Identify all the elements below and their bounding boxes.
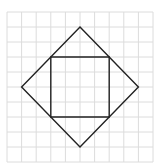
grid-lines	[7, 12, 153, 162]
grid-figure	[0, 0, 158, 167]
